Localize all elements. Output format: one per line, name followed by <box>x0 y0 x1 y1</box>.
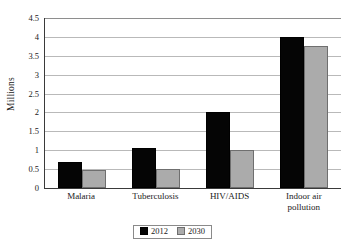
bar-group <box>267 18 341 188</box>
x-axis-tick-line: Malaria <box>44 191 118 202</box>
bar-2030-tuberculosis <box>156 169 180 188</box>
y-axis-tick: 3.5 <box>28 52 39 61</box>
black-square-swatch <box>140 227 148 235</box>
y-axis-tick: 1 <box>35 146 39 155</box>
bar-group <box>45 18 119 188</box>
x-axis-tick-labels: MalariaTuberculosisHIV/AIDSIndoor airpol… <box>44 191 341 213</box>
bar-group <box>119 18 193 188</box>
y-axis-tick: 0 <box>35 184 39 193</box>
bar-group <box>193 18 267 188</box>
x-axis-tick: HIV/AIDS <box>193 191 267 213</box>
y-axis-title-label: Millions <box>6 77 16 111</box>
x-axis-tick-line: HIV/AIDS <box>193 191 267 202</box>
y-axis-tick: 2.5 <box>28 89 39 98</box>
y-axis-tick: 4.5 <box>28 14 39 23</box>
x-axis-tick-line: Tuberculosis <box>118 191 192 202</box>
legend-item: 2030 <box>177 227 205 236</box>
legend-label: 2012 <box>151 227 168 236</box>
x-axis-tick: Tuberculosis <box>118 191 192 213</box>
y-axis-tick-labels: 4.543.532.521.510.50 <box>16 18 42 188</box>
bar-2012-hiv-aids <box>206 112 230 188</box>
bars-layer <box>45 18 341 188</box>
legend-item: 2012 <box>140 227 168 236</box>
gray-square-swatch <box>177 227 185 235</box>
bar-2030-indoor-air-pollution <box>304 46 328 188</box>
bar-2012-tuberculosis <box>132 148 156 188</box>
legend-label: 2030 <box>188 227 205 236</box>
x-axis-tick-line: Indoor air <box>267 191 341 202</box>
bar-2012-indoor-air-pollution <box>280 37 304 188</box>
bar-2012-malaria <box>58 162 82 188</box>
bar-2030-malaria <box>82 170 106 188</box>
plot-area <box>44 18 341 189</box>
y-axis-tick: 1.5 <box>28 127 39 136</box>
bar-2030-hiv-aids <box>230 150 254 188</box>
y-axis-tick: 0.5 <box>28 165 39 174</box>
x-axis-tick: Malaria <box>44 191 118 213</box>
x-axis-tick: Indoor airpollution <box>267 191 341 213</box>
y-axis-tick: 4 <box>35 33 39 42</box>
chart-legend: 20122030 <box>133 225 212 239</box>
y-axis-tick: 2 <box>35 108 39 117</box>
bar-chart-figure: Millions 4.543.532.521.510.50 MalariaTub… <box>0 0 348 250</box>
x-axis-tick-line: pollution <box>267 202 341 213</box>
y-axis-tick: 3 <box>35 70 39 79</box>
